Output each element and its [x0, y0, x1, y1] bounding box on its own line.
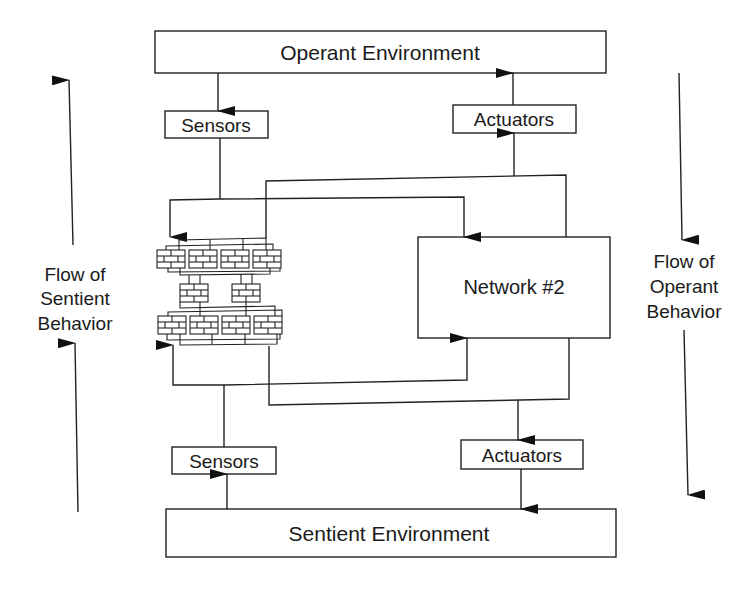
sentient-flow-line-2: Sentient — [40, 288, 110, 309]
operant-flow-line-3: Behavior — [647, 301, 723, 322]
sentient-environment-box: Sentient Environment — [166, 509, 616, 557]
operant-flow-label: Flow of Operant Behavior — [647, 251, 723, 322]
network-1-bottom-module — [222, 316, 250, 334]
operant-flow-line-2: Operant — [650, 276, 719, 297]
arrow-sensors-bottom-to-network-1 — [173, 345, 224, 385]
network-1-middle-module — [232, 284, 260, 302]
operant-flow-arrow-lower — [684, 330, 688, 495]
network-1-top-module — [253, 250, 281, 268]
network-2-box: Network #2 — [418, 237, 610, 338]
actuators-bottom-label: Actuators — [482, 445, 562, 466]
network-1-top-module — [189, 250, 217, 268]
sentient-environment-label: Sentient Environment — [289, 522, 490, 545]
mesh-wire — [168, 268, 280, 272]
arrow-sensors-top-to-network-1 — [170, 199, 220, 237]
network-1-top-module — [157, 250, 185, 268]
arrow-sensors-bottom-to-network-2 — [224, 338, 467, 385]
network-1-bottom-module — [190, 316, 218, 334]
mesh-wire — [168, 310, 282, 316]
network-1-middle-module — [180, 284, 208, 302]
actuators-top-box: Actuators — [453, 105, 576, 133]
network-1-top-module — [221, 250, 249, 268]
network-1-mesh — [157, 238, 282, 345]
network-outputs-top-bus — [266, 175, 566, 238]
operant-flow-line-1: Flow of — [653, 251, 715, 272]
sensors-top-label: Sensors — [181, 115, 251, 136]
mesh-wire — [166, 244, 273, 250]
operant-flow-arrow-upper — [679, 73, 682, 240]
mesh-wire — [180, 302, 275, 316]
network-2-label: Network #2 — [463, 276, 564, 298]
operant-environment-box: Operant Environment — [155, 31, 606, 73]
network-1-bottom-module — [158, 316, 186, 334]
arrow-sensors-top-to-network-2 — [220, 197, 464, 237]
network-1-bottom-module — [254, 316, 282, 334]
actuators-bottom-box: Actuators — [461, 440, 583, 469]
behavior-flow-diagram: Operant Environment Sentient Environment… — [0, 0, 756, 589]
sentient-flow-arrow-lower — [75, 343, 78, 512]
mesh-wire — [167, 334, 280, 340]
sentient-flow-line-3: Behavior — [38, 313, 114, 334]
sentient-flow-line-1: Flow of — [44, 264, 106, 285]
sentient-flow-label: Flow of Sentient Behavior — [38, 264, 114, 334]
sentient-flow-arrow-upper — [69, 80, 73, 245]
operant-environment-label: Operant Environment — [280, 41, 480, 64]
sensors-top-box: Sensors — [165, 111, 268, 138]
sensors-bottom-label: Sensors — [189, 451, 259, 472]
actuators-top-label: Actuators — [474, 109, 554, 130]
sensors-bottom-box: Sensors — [172, 447, 276, 474]
network-outputs-bottom-bus — [269, 338, 569, 405]
